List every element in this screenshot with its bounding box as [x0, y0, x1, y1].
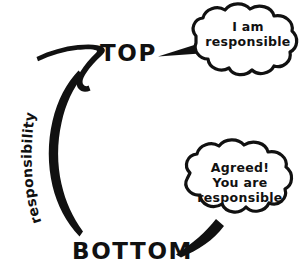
arc-label-responsibility: responsibility	[19, 111, 45, 226]
top-bubble-line-1: I am	[232, 19, 264, 34]
node-label-bottom: BOTTOM	[72, 238, 193, 264]
top-bubble: I am responsible	[158, 4, 297, 75]
responsibility-arrow	[37, 44, 105, 236]
bottom-bubble-line-3: responsible	[197, 190, 282, 205]
bottom-bubble: Agreed! You are responsible	[176, 140, 292, 258]
node-label-top: TOP	[100, 40, 157, 66]
top-bubble-line-2: responsible	[205, 34, 290, 49]
arrow-arc	[49, 71, 84, 237]
bottom-bubble-line-1: Agreed!	[211, 160, 270, 175]
diagram-canvas: responsibility TOP BOTTOM I am responsib…	[0, 0, 301, 269]
arc-label-group: responsibility	[19, 71, 48, 228]
bottom-bubble-line-2: You are	[212, 175, 268, 190]
